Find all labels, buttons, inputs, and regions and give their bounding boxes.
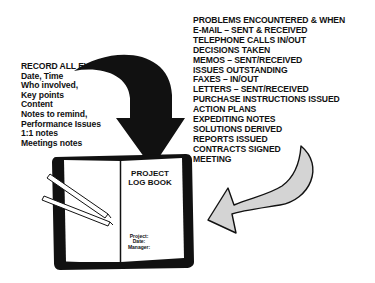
record-types-list: PROBLEMS ENCOUNTERED & WHEN E-MAIL – SEN… <box>193 16 345 165</box>
list-item: MEETING <box>193 155 345 165</box>
book-fields: Project: Date: Manager: <box>124 234 154 250</box>
book-title: PROJECT LOG BOOK <box>122 170 178 187</box>
book-field-manager: Manager: <box>124 245 154 250</box>
list-item: Meetings notes <box>21 139 115 149</box>
book-title-line2: LOG BOOK <box>122 179 178 188</box>
events-list: RECORD ALL EVENTS: Date, Time Who involv… <box>21 62 115 148</box>
